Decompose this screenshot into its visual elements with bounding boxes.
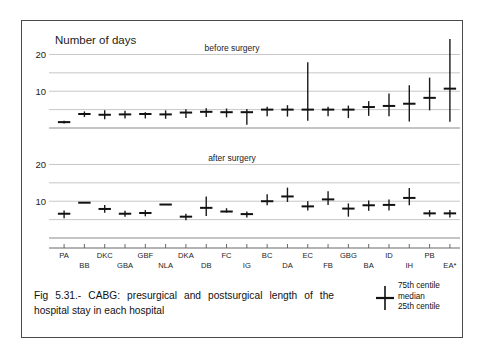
figure-root: 1020before surgery1020after surgeryPABBD… [0,0,484,351]
centile-marker [423,78,435,111]
centile-marker [261,194,273,205]
centile-marker [362,101,374,116]
centile-marker [99,205,111,213]
centile-marker [241,212,253,218]
y-axis-tick-label: 20 [35,159,46,170]
centile-marker [58,121,70,124]
centile-marker [58,210,70,218]
legend-label-p75: 75th centile [398,281,440,292]
centile-marker [281,105,293,116]
centile-marker [78,111,90,117]
legend-labels: 75th centile median 25th centile [398,281,440,313]
centile-marker [281,188,293,202]
x-axis-category-label: BC [262,251,273,260]
centile-marker [322,107,334,117]
x-axis-category-label: BB [79,261,89,270]
x-axis-category-label: FB [323,261,333,270]
centile-marker [119,211,131,217]
centile-marker [180,109,192,118]
x-axis-category-label: DKA [178,251,195,260]
y-axis-tick-label: 10 [35,86,46,97]
x-axis-category-label: IH [405,261,413,270]
x-axis-category-label: PA [59,251,70,260]
x-axis-category-label: NLA [158,261,174,270]
x-axis-category-label: BA [364,261,375,270]
x-axis-category-label: GBF [138,251,154,260]
x-axis-category-label: DB [201,261,212,270]
x-axis-category-label: GBG [340,251,357,260]
centile-marker [241,109,253,125]
x-axis-category-label: EA* [443,261,456,270]
legend-label-median: median [398,292,440,303]
y-axis-tick-label: 10 [35,196,46,207]
centile-marker [403,85,415,121]
y-axis-tick-label: 20 [35,49,46,60]
x-axis-category-label: FC [221,251,232,260]
centile-marker [119,111,131,119]
centile-marker [444,210,456,217]
whisker-marker-icon [374,285,396,311]
x-axis-category-label: DA [282,261,293,270]
centile-marker [383,93,395,116]
centile-marker [159,110,171,118]
panel-label-after-surgery: after surgery [208,153,256,163]
figure-caption: Fig 5.31.- CABG: presurgical and postsur… [34,288,334,318]
x-axis-category-label: EC [302,251,313,260]
x-axis-category-label: IG [243,261,251,270]
centile-marker [99,110,111,119]
centile-marker [423,210,435,217]
x-axis-category-label: GBA [117,261,134,270]
centile-marker [139,210,151,216]
centile-marker [342,203,354,216]
centile-marker [261,107,273,117]
x-axis-category-label: DKC [97,251,114,260]
centile-marker [302,201,314,210]
centile-marker [220,208,232,212]
centile-marker [139,112,151,118]
centile-marker [200,196,212,215]
x-axis-category-label: PB [425,251,435,260]
centile-marker [322,191,334,205]
centile-marker [342,106,354,119]
legend-label-p25: 25th centile [398,302,440,313]
x-axis-category-label: ID [385,251,393,260]
centile-marker [362,200,374,210]
y-axis-title: Number of days [55,34,136,46]
panel-label-before-surgery: before surgery [205,43,261,53]
centile-marker [403,188,415,205]
